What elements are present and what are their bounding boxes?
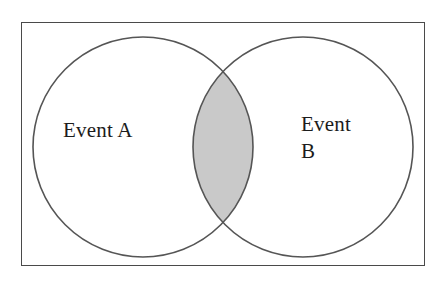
venn-diagram-canvas: Event A Event B <box>0 0 446 282</box>
set-label-b-line2: B <box>301 139 315 163</box>
venn-diagram-figure: Event A Event B <box>0 0 446 282</box>
set-label-b-line1: Event <box>301 112 351 136</box>
set-label-a: Event A <box>63 118 133 142</box>
